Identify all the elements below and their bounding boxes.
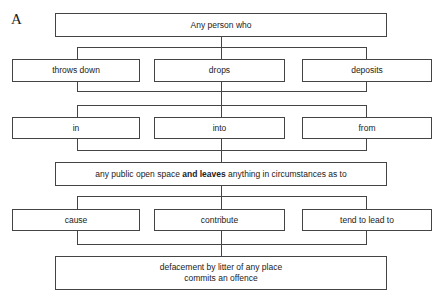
box-text: contribute [201,215,238,226]
box-contribute: contribute [154,209,285,231]
box-text: into [213,123,227,134]
box-tend-to-lead-to: tend to lead to [302,209,432,231]
box-in: in [12,117,140,139]
box-text: Any person who [191,20,252,31]
box-drops: drops [154,59,285,82]
box-text: cause [65,215,88,226]
box-text: any public open space and leaves anythin… [95,169,346,180]
box-text: tend to lead to [340,215,394,226]
box-public-open-space: any public open space and leaves anythin… [55,162,387,186]
text-before: any public open space [95,169,180,179]
box-cause: cause [12,209,140,231]
connector-row1-to-row2 [221,91,222,106]
text-after: anything in circumstances as to [228,169,347,179]
box-text-line2: commits an offence [184,273,258,284]
box-into: into [154,117,285,139]
box-any-person: Any person who [55,13,387,37]
box-text: deposits [351,65,383,76]
box-text: drops [209,65,230,76]
figure-label: A [11,11,22,28]
box-offence: defacement by litter of any place commit… [55,256,387,290]
box-throws-down: throws down [12,59,140,82]
box-text: throws down [52,65,100,76]
box-from: from [302,117,432,139]
box-text: in [73,123,80,134]
box-deposits: deposits [302,59,432,82]
box-text: from [359,123,376,134]
box-text-line1: defacement by litter of any place [160,262,282,273]
text-bold: and leaves [182,169,225,179]
